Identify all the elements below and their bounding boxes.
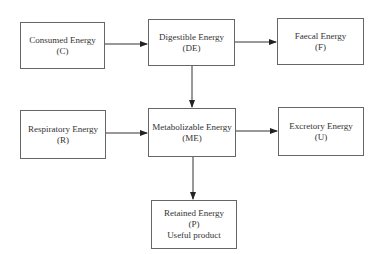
node-label: Digestible Energy: [159, 32, 224, 43]
node-faecal-energy: Faecal Energy (F): [277, 18, 364, 65]
node-abbrev: (ME): [182, 133, 202, 144]
node-note: Useful product: [167, 230, 221, 241]
node-abbrev: (R): [57, 135, 69, 146]
node-consumed-energy: Consumed Energy (C): [20, 22, 105, 69]
node-abbrev: (DE): [183, 43, 201, 54]
node-metabolizable-energy: Metabolizable Energy (ME): [148, 108, 236, 157]
node-label: Consumed Energy: [29, 35, 96, 46]
node-abbrev: (P): [189, 219, 200, 230]
node-abbrev: (F): [315, 42, 326, 53]
node-label: Metabolizable Energy: [152, 122, 232, 133]
node-respiratory-energy: Respiratory Energy (R): [20, 110, 106, 159]
node-abbrev: (C): [57, 46, 69, 57]
node-label: Faecal Energy: [295, 31, 347, 42]
node-label: Retained Energy: [164, 208, 224, 219]
node-digestible-energy: Digestible Energy (DE): [148, 19, 235, 66]
node-retained-energy: Retained Energy (P) Useful product: [151, 200, 237, 249]
node-abbrev: (U): [315, 132, 328, 143]
node-label: Excretory Energy: [289, 121, 353, 132]
node-excretory-energy: Excretory Energy (U): [278, 107, 364, 156]
node-label: Respiratory Energy: [28, 124, 98, 135]
